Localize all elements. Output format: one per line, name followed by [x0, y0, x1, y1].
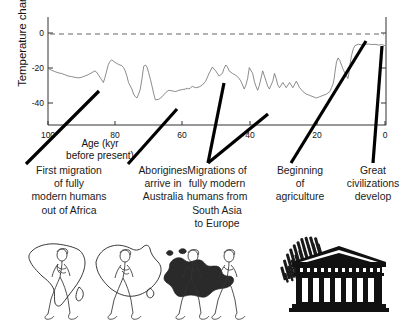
caption-line: humans from [165, 190, 269, 203]
caption-line: South Asia [165, 204, 269, 217]
caption-line: of fully [8, 177, 130, 190]
annotation-leader-lines [26, 41, 382, 164]
leader-line-agriculture [291, 41, 366, 163]
africa-map-with-walking-human-icon [29, 244, 85, 319]
caption-line: out of Africa [8, 204, 130, 217]
caption-beginning-of-agriculture: Beginning of agriculture [261, 164, 339, 204]
caption-line: fully modern [165, 177, 269, 190]
caption-migrations-south-asia-to-europe: Migrations of fully modern humans from S… [165, 164, 269, 230]
caption-line: modern humans [8, 190, 130, 203]
europe-map-with-walking-human-icon [164, 249, 245, 320]
leader-line-australia [128, 109, 177, 164]
caption-line: Migrations of [165, 164, 269, 177]
climate-timeline-figure: Temperature change (°F) 0 -20 -40 100 80… [0, 0, 412, 327]
caption-first-migration-out-of-africa: First migration of fully modern humans o… [8, 164, 130, 217]
caption-line: develop [337, 190, 409, 203]
greek-temple-icon [289, 246, 389, 312]
caption-line: agriculture [261, 190, 339, 203]
leader-line-africa [26, 91, 99, 164]
australia-map-with-walking-human-icon [96, 245, 161, 319]
caption-line: to Europe [165, 217, 269, 230]
caption-line: Great [337, 164, 409, 177]
caption-line: of [261, 177, 339, 190]
caption-line: Beginning [261, 164, 339, 177]
caption-line: civilizations [337, 177, 409, 190]
leader-line-civilizations [373, 46, 382, 163]
caption-line: First migration [8, 164, 130, 177]
caption-great-civilizations-develop: Great civilizations develop [337, 164, 409, 204]
